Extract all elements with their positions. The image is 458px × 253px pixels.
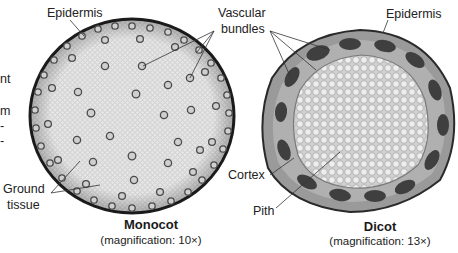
dicot-magnification-caption: (magnification: 13×) — [305, 235, 455, 247]
cropped-label-fragment: - — [0, 134, 4, 148]
monocot-epidermis-label: Epidermis — [47, 6, 103, 20]
vascular-bundles-label-line1: Vascular — [218, 6, 266, 20]
monocot-title: Monocot — [96, 217, 206, 232]
stem-cross-section-figure: nt m - - Epidermis Vascular bundles Grou… — [0, 0, 458, 253]
pith-label: Pith — [253, 204, 275, 218]
monocot-cross-section — [30, 19, 234, 213]
vascular-bundles-label-line2: bundles — [221, 22, 265, 36]
ground-tissue-label-line2: tissue — [7, 198, 40, 212]
dicot-title: Dicot — [330, 219, 430, 234]
cropped-label-fragment: - — [0, 119, 4, 133]
cross-section-illustrations — [0, 0, 458, 253]
ground-tissue-label-line1: Ground — [3, 182, 45, 196]
monocot-magnification-caption: (magnification: 10×) — [76, 234, 226, 246]
cropped-label-fragment: m — [0, 104, 10, 118]
dicot-cross-section — [262, 20, 454, 212]
dicot-epidermis-label: Epidermis — [386, 7, 442, 21]
cropped-label-fragment: nt — [0, 72, 10, 86]
cortex-label: Cortex — [228, 168, 265, 182]
